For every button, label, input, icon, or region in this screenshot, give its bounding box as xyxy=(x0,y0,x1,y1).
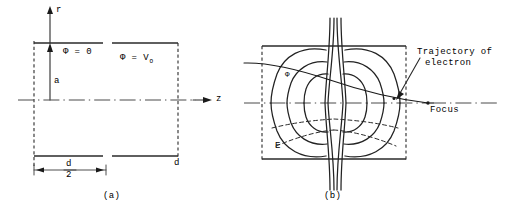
potential-left-label: Φ = 0 xyxy=(63,47,92,57)
potential-right-main: Φ = V xyxy=(120,53,149,63)
r-axis xyxy=(47,6,53,43)
half-gap-numerator: d xyxy=(66,159,72,169)
equipotential-label: Φ xyxy=(285,71,290,79)
total-gap-label: d xyxy=(174,158,180,168)
aperture-radius-arrow xyxy=(47,43,53,100)
z-axis xyxy=(18,97,212,103)
aperture-radius-label: a xyxy=(54,76,60,86)
electrode-aperture-right xyxy=(337,18,346,190)
potential-right-label: Φ = VO xyxy=(120,47,153,65)
electrode-aperture-left xyxy=(325,18,334,190)
electron-trajectory xyxy=(244,63,430,105)
potential-right-subscript: O xyxy=(150,58,154,65)
r-axis-label: r xyxy=(56,5,62,15)
trajectory-label-line2: electron xyxy=(425,58,471,68)
figure-container: r z Φ = 0 Φ = VO a d 2 d (a) Φ E Traject… xyxy=(0,0,525,216)
half-gap-denominator: 2 xyxy=(66,170,72,180)
trajectory-label-line1: Trajectory of xyxy=(417,47,492,57)
field-label: E xyxy=(275,141,281,151)
caption-b: (b) xyxy=(324,191,341,201)
trajectory-leader-arrow xyxy=(396,58,420,100)
panel-a xyxy=(18,6,212,175)
z-axis-label: z xyxy=(216,94,222,104)
caption-a: (a) xyxy=(103,191,120,201)
panel-b xyxy=(244,18,500,190)
focus-label: Focus xyxy=(430,105,459,115)
